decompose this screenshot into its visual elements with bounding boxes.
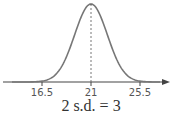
x-tick-label: 25.5 [129, 87, 151, 98]
caption-annotation: 2 s.d. = 3 [61, 97, 120, 114]
normal-distribution-chart: 16.52125.5 2 s.d. = 3 [0, 0, 177, 119]
x-axis-arrow [162, 79, 170, 85]
x-tick-label: 16.5 [31, 87, 53, 98]
normal-curve [12, 4, 160, 82]
